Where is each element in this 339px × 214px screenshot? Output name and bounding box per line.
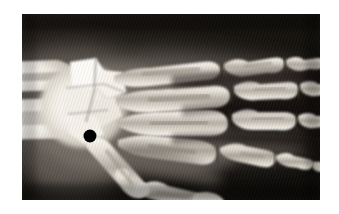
- film-grain-overlay: [22, 14, 320, 200]
- radiograph-figure: X-ray hand dorsopalmar right base of thu…: [0, 0, 339, 214]
- hand-xray-image: [22, 14, 320, 200]
- xray-image-frame: [22, 14, 320, 200]
- fiducial-dot-marker: [84, 130, 97, 143]
